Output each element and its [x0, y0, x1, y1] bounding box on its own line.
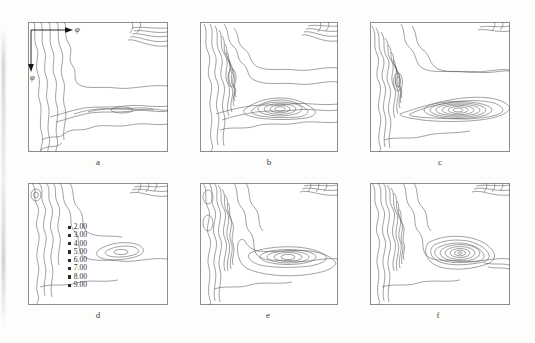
panel-e-contours [200, 183, 338, 305]
legend-value: 9.00 [74, 281, 87, 289]
legend-marker-icon [68, 275, 71, 278]
panel-label-a: a [88, 157, 108, 167]
legend-marker-icon [68, 226, 71, 229]
panel-d-contours [28, 183, 168, 305]
panel-e [200, 183, 338, 305]
arrowhead-down [28, 64, 34, 72]
legend-marker-icon [68, 267, 71, 270]
contour-figure: φ φ a [0, 0, 535, 343]
panel-f-contours [370, 183, 510, 305]
panel-label-f: f [428, 310, 448, 320]
panel-c-contours [370, 22, 510, 152]
phi-right-label: φ [75, 24, 80, 34]
panel-label-e: e [258, 310, 278, 320]
panel-label-c: c [430, 157, 450, 167]
panel-a: φ φ [28, 22, 168, 152]
legend-marker-icon [68, 259, 71, 262]
scan-edge-artifact [2, 28, 5, 328]
panel-c [370, 22, 510, 152]
panel-label-b: b [259, 157, 279, 167]
contour-legend: 2.00 3.00 4.00 5.00 6.00 7.00 8.00 9.00 [68, 223, 87, 289]
panel-label-d: d [88, 310, 108, 320]
panel-f [370, 183, 510, 305]
arrowhead-right [65, 27, 73, 33]
phi-down-label: φ [30, 72, 35, 82]
legend-marker-icon [68, 284, 71, 287]
legend-marker-icon [68, 242, 71, 245]
legend-item: 9.00 [68, 281, 87, 289]
legend-marker-icon [68, 250, 71, 253]
panel-b [200, 22, 338, 152]
panel-d: 2.00 3.00 4.00 5.00 6.00 7.00 8.00 9.00 [28, 183, 168, 305]
legend-marker-icon [68, 234, 71, 237]
panel-b-contours [200, 22, 338, 152]
